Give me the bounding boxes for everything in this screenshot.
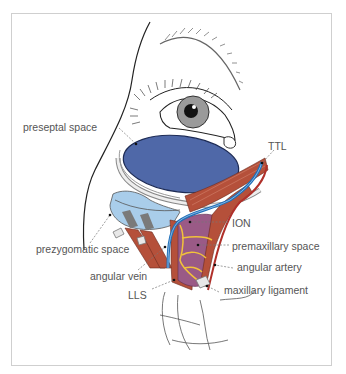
label-lls: LLS [128,290,147,301]
eye-highlight [192,105,196,109]
label-angular-vein: angular vein [90,271,147,282]
label-angular-artery: angular artery [237,262,302,273]
label-prezygomatic-space: prezygomatic space [36,244,129,255]
anatomy-illustration [0,0,346,374]
label-premaxillary-space: premaxillary space [232,241,320,252]
label-ion: ION [232,218,251,229]
pupil [184,104,198,118]
label-maxillary-ligament: maxillary ligament [224,285,308,296]
label-ttl: TTL [268,141,287,152]
nose-outline [160,290,255,350]
label-preseptal-space: preseptal space [23,122,97,133]
